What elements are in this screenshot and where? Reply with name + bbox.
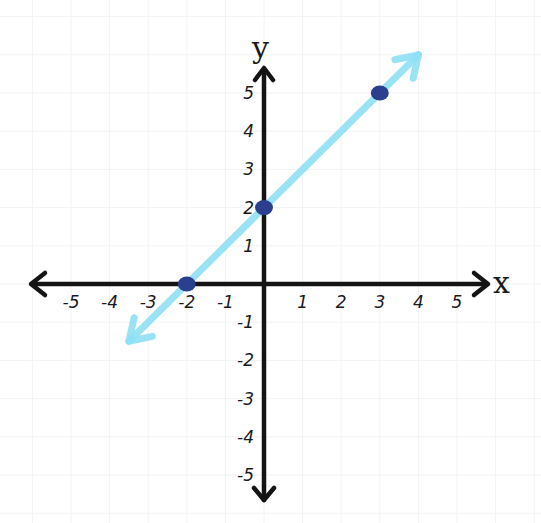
y-tick-label: 1 — [243, 236, 254, 256]
y-tick-label: -4 — [237, 427, 254, 447]
data-point — [178, 277, 196, 292]
x-tick-label: -2 — [178, 292, 195, 312]
y-tick-label: -1 — [237, 312, 254, 332]
y-tick-label: -2 — [237, 350, 254, 370]
data-point — [371, 86, 389, 101]
y-tick-label: 4 — [243, 121, 254, 141]
chart-svg: -5-4-3-2-11234554321-1-2-3-4-5 x y — [0, 0, 541, 523]
x-tick-label: 1 — [297, 292, 308, 312]
y-tick-label: 5 — [243, 83, 254, 103]
y-tick-label: -3 — [237, 389, 254, 409]
y-axis-label: y — [251, 30, 269, 65]
x-tick-label: -3 — [140, 292, 157, 312]
x-tick-label: 4 — [413, 292, 424, 312]
axes — [31, 68, 488, 500]
x-tick-label: 2 — [336, 292, 347, 312]
x-tick-label: -1 — [217, 292, 234, 312]
x-tick-label: 3 — [374, 292, 385, 312]
x-axis-label: x — [493, 265, 510, 300]
x-tick-label: 5 — [452, 292, 463, 312]
y-tick-label: -5 — [237, 465, 254, 485]
coordinate-plane-chart: -5-4-3-2-11234554321-1-2-3-4-5 x y — [0, 0, 541, 523]
x-tick-label: -4 — [101, 292, 118, 312]
x-tick-label: -5 — [63, 292, 80, 312]
y-tick-label: 3 — [243, 159, 254, 179]
data-point — [255, 200, 273, 215]
